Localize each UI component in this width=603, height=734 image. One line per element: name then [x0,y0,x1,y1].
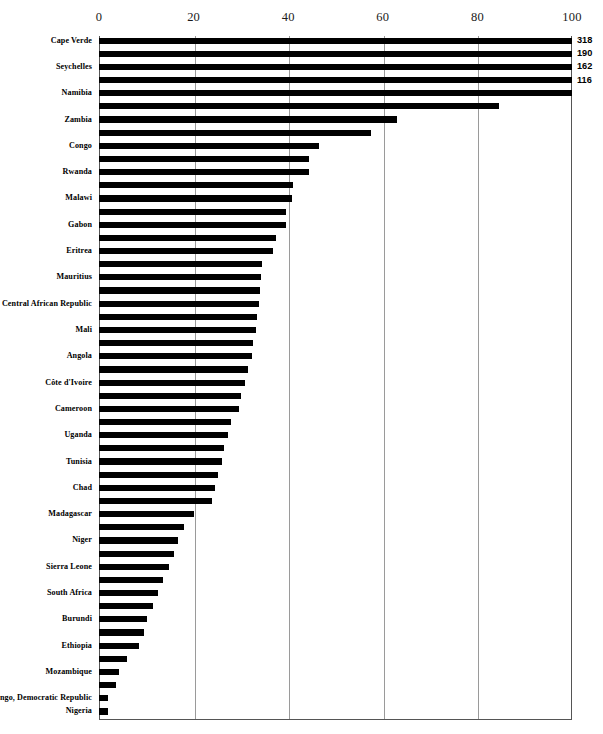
bar-row [99,314,572,320]
bar-row [99,432,572,438]
bar-row [99,327,572,333]
bar [99,340,253,346]
bar [99,419,231,425]
bar [99,314,257,320]
bar-row [99,195,572,201]
bar [99,353,252,359]
bar [99,182,293,188]
category-label: Cameroon [55,405,92,413]
bar-row [99,603,572,609]
x-tick-label: 100 [562,10,581,25]
bar [99,485,215,491]
category-label: South Africa [47,589,92,597]
category-label: Eritrea [66,247,92,255]
bars-layer [99,36,572,720]
bar [99,406,239,412]
category-label: Seychelles [56,63,92,71]
bar-row [99,156,572,162]
bar-value-label: 190 [577,49,592,58]
category-label: Côte d'Ivoire [45,379,92,387]
bar [99,472,218,478]
bar [99,682,116,688]
bar [99,156,309,162]
bar [99,616,147,622]
bar-row [99,669,572,675]
bar [99,143,319,149]
bar-row [99,511,572,517]
bar [99,564,169,570]
bar [99,103,499,109]
category-label: Gabon [68,221,92,229]
bar-row [99,472,572,478]
bar [99,524,184,530]
bar [99,287,260,293]
bar [99,274,261,280]
x-tick-label: 80 [471,10,484,25]
bar-row [99,248,572,254]
category-label: Malawi [65,194,92,202]
bar-row [99,537,572,543]
bar [99,327,256,333]
bar-row [99,419,572,425]
bar [99,537,178,543]
x-axis-tick-labels: 020406080100 [0,10,603,30]
bar [99,222,286,228]
category-label: Tunisia [66,458,92,466]
bar [99,301,259,307]
bar-row [99,643,572,649]
bar [99,629,144,635]
bar-row [99,393,572,399]
bar-row [99,301,572,307]
x-tick-label: 40 [282,10,295,25]
bar-row [99,90,572,96]
bar [99,51,572,57]
category-label: Sierra Leone [46,563,92,571]
category-label: Nigeria [66,707,92,715]
bar [99,708,108,714]
category-label: Zambia [64,116,92,124]
bar [99,90,572,96]
x-tick-label: 60 [376,10,389,25]
bar-row [99,274,572,280]
bar-row [99,38,572,44]
category-label: Namibia [62,89,92,97]
bar-value-label: 318 [577,36,592,45]
bar-row [99,616,572,622]
bar-row [99,261,572,267]
bar [99,643,139,649]
category-label: Cape Verde [51,37,92,45]
bar-row [99,182,572,188]
category-label: Mali [75,326,92,334]
bar [99,195,292,201]
bar [99,261,262,267]
bar-row [99,577,572,583]
bar [99,380,245,386]
category-label: Rwanda [63,168,92,176]
bar [99,458,222,464]
bar-row [99,143,572,149]
bar [99,366,248,372]
bar [99,511,194,517]
bar [99,603,153,609]
bar [99,577,163,583]
category-label: Burundi [62,615,92,623]
bar-row [99,445,572,451]
category-label: Madagascar [48,510,92,518]
bar [99,432,228,438]
bar-row [99,564,572,570]
category-label: Angola [67,352,92,360]
bar [99,393,241,399]
bar-row [99,340,572,346]
bar [99,130,371,136]
bar [99,445,224,451]
category-label: Congo, Democratic Republic [0,694,92,702]
bar-chart: 020406080100 Cape VerdeSeychellesNamibia… [0,0,603,734]
value-labels: 318190162116 [574,36,603,720]
bar-row [99,130,572,136]
bar [99,77,572,83]
bar-row [99,629,572,635]
bar-row [99,77,572,83]
category-labels: Cape VerdeSeychellesNamibiaZambiaCongoRw… [0,36,96,720]
bar [99,695,108,701]
bar-row [99,103,572,109]
